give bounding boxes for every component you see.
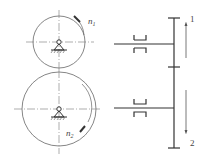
gear-2-speed-label: n2 (66, 128, 74, 139)
rotation-arrow-n2-icon (80, 84, 92, 132)
direction-label-2: 2 (190, 138, 195, 148)
direction-arrow-1: 1 (186, 14, 195, 58)
gear-train-diagram: n1 n2 (0, 0, 208, 164)
shaft-1 (114, 35, 174, 53)
gear-1: n1 (26, 10, 96, 70)
gear-2: n2 (14, 70, 102, 154)
direction-label-1: 1 (190, 14, 195, 24)
side-view (114, 18, 180, 148)
direction-arrow-2: 2 (186, 90, 195, 148)
gear-1-speed-label: n1 (88, 16, 96, 27)
shaft-2 (114, 99, 174, 117)
